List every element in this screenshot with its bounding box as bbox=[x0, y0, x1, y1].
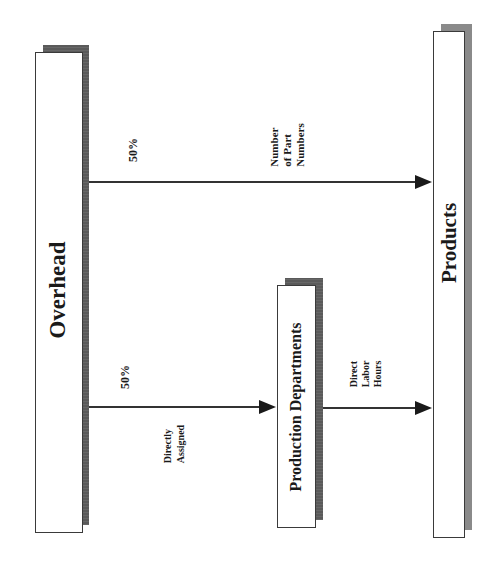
arrow-overhead-to-production-head-icon bbox=[259, 400, 276, 414]
driver-line: Direct bbox=[348, 361, 360, 388]
products-node bbox=[433, 31, 465, 538]
driver-line: Assigned bbox=[174, 425, 187, 463]
driver-line: Number bbox=[268, 123, 281, 166]
products-label: Products bbox=[437, 203, 462, 283]
edge-driver-overhead-to-production: Directly Assigned bbox=[161, 425, 187, 463]
driver-line: Directly bbox=[161, 425, 174, 463]
arrow-overhead-to-products-line bbox=[89, 181, 419, 183]
production-departments-label: Production Departments bbox=[287, 322, 305, 491]
arrow-production-to-products-head-icon bbox=[415, 401, 432, 415]
driver-line: Labor bbox=[360, 361, 372, 388]
edge-driver-production-to-products: Direct Labor Hours bbox=[348, 361, 384, 388]
driver-line: Hours bbox=[372, 361, 384, 388]
arrow-overhead-to-production-line bbox=[89, 406, 264, 408]
overhead-label: Overhead bbox=[45, 241, 71, 338]
arrow-production-to-products-line bbox=[323, 407, 419, 409]
edge-driver-overhead-to-products: Number of Part Numbers bbox=[268, 123, 307, 166]
edge-percent-overhead-to-products: 50% bbox=[127, 138, 140, 162]
edge-percent-overhead-to-production: 50% bbox=[119, 365, 132, 389]
driver-line: Numbers bbox=[294, 123, 307, 166]
arrow-overhead-to-products-head-icon bbox=[415, 175, 432, 189]
driver-line: of Part bbox=[281, 123, 294, 166]
